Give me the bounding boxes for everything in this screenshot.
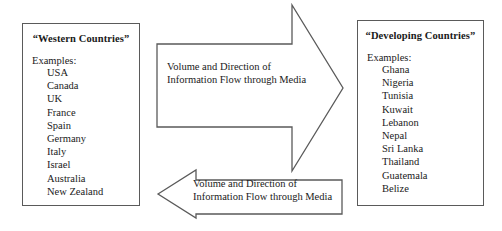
country-list-item: Nigeria xyxy=(382,76,483,89)
rightward-flow-arrow xyxy=(156,3,346,173)
country-list-item: Nepal xyxy=(382,129,483,142)
western-countries-box: “Western Countries” Examples: USACanadaU… xyxy=(22,23,140,206)
leftward-arrow-label-line1: Volume and Direction of xyxy=(193,177,332,190)
developing-country-list: GhanaNigeriaTunisiaKuwaitLebanonNepalSri… xyxy=(382,63,483,195)
country-list-item: Ghana xyxy=(382,63,483,76)
leftward-arrow-label: Volume and Direction of Information Flow… xyxy=(193,177,332,204)
country-list-item: Tunisia xyxy=(382,89,483,102)
diagram-canvas: “Western Countries” Examples: USACanadaU… xyxy=(0,0,502,231)
rightward-arrow-label: Volume and Direction of Information Flow… xyxy=(167,60,306,87)
western-country-list: USACanadaUKFranceSpainGermanyItalyIsrael… xyxy=(47,66,139,198)
country-list-item: Lebanon xyxy=(382,116,483,129)
rightward-arrow-label-line1: Volume and Direction of xyxy=(167,60,306,73)
western-countries-title: “Western Countries” xyxy=(23,33,139,44)
leftward-arrow-label-line2: Information Flow through Media xyxy=(193,190,332,203)
developing-examples-label: Examples: xyxy=(367,52,483,63)
rightward-arrow-shape xyxy=(157,5,343,171)
rightward-arrow-label-line2: Information Flow through Media xyxy=(167,73,306,86)
country-list-item: Kuwait xyxy=(382,103,483,116)
country-list-item: Guatemala xyxy=(382,169,483,182)
country-list-item: Italy xyxy=(47,145,139,158)
country-list-item: Sri Lanka xyxy=(382,142,483,155)
country-list-item: New Zealand xyxy=(47,185,139,198)
country-list-item: USA xyxy=(47,66,139,79)
country-list-item: Belize xyxy=(382,182,483,195)
country-list-item: Israel xyxy=(47,158,139,171)
developing-countries-title: “Developing Countries” xyxy=(358,30,483,41)
country-list-item: France xyxy=(47,106,139,119)
developing-countries-box: “Developing Countries” Examples: GhanaNi… xyxy=(357,20,484,206)
country-list-item: Australia xyxy=(47,172,139,185)
western-examples-label: Examples: xyxy=(32,55,139,66)
country-list-item: Canada xyxy=(47,79,139,92)
country-list-item: Germany xyxy=(47,132,139,145)
country-list-item: Thailand xyxy=(382,155,483,168)
country-list-item: UK xyxy=(47,92,139,105)
country-list-item: Spain xyxy=(47,119,139,132)
